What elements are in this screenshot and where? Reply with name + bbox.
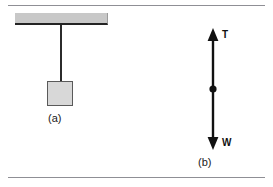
ceiling-support: [15, 13, 108, 25]
tension-arrowhead-icon: [208, 28, 219, 41]
physics-figure: (a) T W (b): [0, 0, 273, 187]
point-mass-dot: [209, 85, 216, 92]
panel-a-caption: (a): [48, 112, 61, 124]
free-body-diagram-arrow: [196, 28, 230, 150]
hanging-block: [47, 81, 73, 106]
weight-force-label: W: [222, 137, 232, 148]
top-divider-rule: [8, 5, 265, 6]
string: [60, 25, 62, 82]
panel-b-caption: (b): [198, 156, 211, 168]
weight-arrowhead-icon: [208, 137, 219, 150]
bottom-divider-rule: [8, 177, 265, 178]
tension-force-label: T: [222, 29, 228, 40]
